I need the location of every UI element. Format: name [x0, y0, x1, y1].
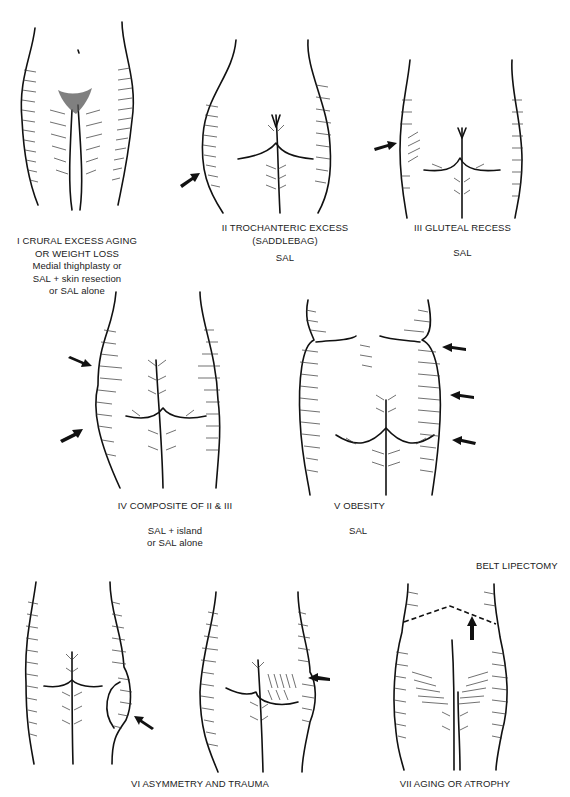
posterior-saddlebag-illustration [178, 35, 338, 215]
panel-V-caption: V OBESITY SAL [318, 500, 414, 537]
posterior-atrophy-illustration [392, 582, 522, 772]
panel-I-treatment-line1: Medial thighplasty or [2, 260, 152, 273]
posterior-trauma-illustration [198, 592, 348, 772]
panel-I-title-line1: I CRURAL EXCESS AGING [2, 235, 152, 248]
figure-panel-IV [68, 290, 248, 490]
figure-panel-II [178, 35, 338, 215]
arrow-icon [452, 436, 476, 445]
arrow-icon [180, 173, 200, 188]
figure-panel-VI-b [198, 592, 348, 772]
posterior-composite-illustration [68, 290, 248, 490]
panel-V-title: V OBESITY [334, 500, 414, 513]
anterior-thighs-illustration [10, 10, 140, 210]
arrow-icon [134, 716, 154, 730]
figure-panel-V [296, 300, 476, 495]
arrow-icon [374, 141, 397, 151]
panel-II-title-line2: (SADDLEBAG) [205, 235, 365, 248]
figure-panel-I [10, 10, 140, 210]
panel-VI-title: VI ASYMMETRY AND TRAUMA [100, 778, 300, 791]
arrow-icon [442, 343, 466, 352]
panel-II-title-line1: II TROCHANTERIC EXCESS [205, 222, 365, 235]
panel-VII-caption: VII AGING OR ATROPHY [385, 778, 525, 791]
posterior-asymmetry-illustration [22, 582, 152, 767]
arrow-icon [68, 356, 92, 367]
panel-I-caption: I CRURAL EXCESS AGING OR WEIGHT LOSS Med… [2, 235, 152, 298]
figure-panel-VI-a [22, 582, 152, 767]
panel-VI-caption: VI ASYMMETRY AND TRAUMA [100, 778, 300, 791]
posterior-obesity-illustration [296, 300, 476, 495]
panel-IV-treatment-line2: or SAL alone [95, 537, 255, 550]
panel-I-title-line2: OR WEIGHT LOSS [2, 248, 152, 261]
posterior-gluteal-recess-illustration [372, 60, 532, 220]
arrow-up-icon [467, 616, 477, 640]
panel-II-caption: II TROCHANTERIC EXCESS (SADDLEBAG) SAL [205, 222, 365, 265]
panel-II-treatment: SAL [205, 252, 365, 265]
panel-III-title: III GLUTEAL RECESS [390, 222, 535, 235]
panel-IV-title: IV COMPOSITE OF II & III [95, 500, 255, 513]
panel-III-treatment: SAL [390, 247, 535, 260]
panel-VII-title: VII AGING OR ATROPHY [385, 778, 525, 791]
panel-VII-treatment: BELT LIPECTOMY [476, 560, 558, 573]
panel-V-treatment: SAL [334, 525, 414, 538]
panel-I-treatment-line2: SAL + skin resection [2, 273, 152, 286]
figure-panel-VII [392, 582, 522, 772]
panel-III-caption: III GLUTEAL RECESS SAL [390, 222, 535, 259]
incision-dashed-line [404, 606, 496, 624]
panel-IV-caption: IV COMPOSITE OF II & III SAL + island or… [95, 500, 255, 550]
figure-panel-III [372, 60, 532, 220]
arrow-icon [450, 391, 474, 400]
arrow-icon [60, 429, 83, 443]
panel-IV-treatment-line1: SAL + island [95, 525, 255, 538]
